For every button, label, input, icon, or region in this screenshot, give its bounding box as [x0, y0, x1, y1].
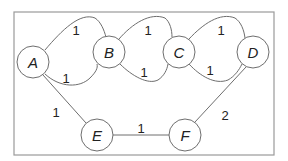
node-b: B [93, 36, 125, 68]
node-b-label: B [104, 44, 114, 61]
node-c: C [163, 36, 195, 68]
weight-c-d-upper: 1 [217, 23, 224, 38]
graph-diagram: 1 1 1 1 1 1 1 1 2 A B C D E F [0, 0, 288, 161]
node-f-label: F [180, 127, 190, 144]
edge-weights: 1 1 1 1 1 1 1 1 2 [52, 23, 228, 136]
weight-a-b-upper: 1 [72, 23, 79, 38]
node-a-label: A [27, 54, 38, 71]
edge-c-d-lower [189, 64, 242, 81]
node-e: E [81, 119, 113, 151]
node-e-label: E [92, 127, 103, 144]
edge-a-b-lower [45, 64, 97, 85]
weight-f-d: 2 [221, 108, 228, 123]
weight-b-c-upper: 1 [144, 23, 151, 38]
weight-a-e: 1 [52, 105, 59, 120]
weight-a-b-lower: 1 [62, 71, 69, 86]
node-f: F [169, 119, 201, 151]
node-d-label: D [248, 44, 259, 61]
weight-c-d-lower: 1 [206, 63, 213, 78]
weight-b-c-lower: 1 [140, 65, 147, 80]
weight-e-f: 1 [137, 121, 144, 136]
node-c-label: C [174, 44, 185, 61]
node-d: D [237, 36, 269, 68]
node-a: A [17, 46, 49, 78]
